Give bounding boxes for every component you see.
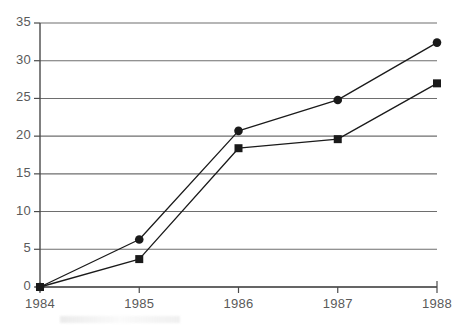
line-series-circle — [40, 43, 437, 287]
marker-series-square-1986 — [235, 144, 243, 152]
gridlines — [40, 23, 437, 287]
y-axis-ticks — [34, 23, 40, 287]
marker-series-square-1984 — [36, 283, 44, 291]
chart-axes — [40, 23, 437, 287]
x-tick-label-1987: 1987 — [308, 296, 368, 311]
y-tick-label-10: 10 — [0, 203, 31, 218]
line-chart: 05101520253035 19841985198619871988 — [0, 0, 464, 326]
line-series-square — [40, 83, 437, 287]
x-tick-label-1984: 1984 — [10, 296, 70, 311]
x-tick-label-1985: 1985 — [109, 296, 169, 311]
x-tick-label-1986: 1986 — [209, 296, 269, 311]
y-tick-label-20: 20 — [0, 127, 31, 142]
marker-series-circle-1987 — [333, 96, 342, 105]
marker-series-square-1985 — [135, 255, 143, 263]
y-tick-label-5: 5 — [0, 240, 31, 255]
y-tick-label-35: 35 — [0, 14, 31, 29]
marker-series-square-1988 — [433, 79, 441, 87]
chart-plot-area — [0, 0, 464, 326]
marker-series-circle-1988 — [433, 38, 442, 47]
x-tick-label-1988: 1988 — [407, 296, 464, 311]
y-tick-label-0: 0 — [0, 278, 31, 293]
marker-series-circle-1985 — [135, 235, 144, 244]
data-series — [36, 38, 442, 291]
y-tick-label-30: 30 — [0, 52, 31, 67]
marker-series-circle-1986 — [234, 127, 243, 136]
scan-artifact — [60, 316, 180, 323]
marker-series-square-1987 — [334, 135, 342, 143]
x-axis-ticks — [40, 287, 437, 293]
y-tick-label-25: 25 — [0, 89, 31, 104]
y-tick-label-15: 15 — [0, 165, 31, 180]
